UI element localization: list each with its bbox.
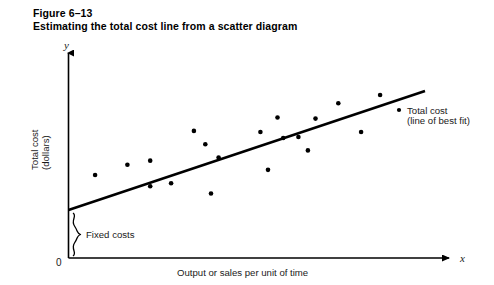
scatter-point <box>336 101 341 106</box>
fixed-costs-brace <box>73 213 81 256</box>
scatter-point <box>266 168 271 173</box>
scatter-point <box>209 191 214 196</box>
scatter-diagram: y x 0 Total cost (dollars) Output or sal… <box>0 0 494 285</box>
scatter-point <box>258 130 263 135</box>
scatter-point <box>378 93 383 98</box>
scatter-point <box>296 135 301 140</box>
series-label-line1: Total cost <box>407 105 448 116</box>
fixed-costs-label: Fixed costs <box>86 229 135 240</box>
origin-label: 0 <box>56 257 62 268</box>
figure-container: Figure 6–13 Estimating the total cost li… <box>0 0 494 285</box>
y-axis-title: Total cost (dollars) <box>29 129 51 170</box>
scatter-point <box>216 155 221 160</box>
y-axis-letter: y <box>63 39 69 51</box>
scatter-point <box>281 136 286 141</box>
scatter-point <box>192 129 197 134</box>
scatter-point <box>359 130 364 135</box>
scatter-point <box>313 116 318 121</box>
scatter-point <box>275 115 280 120</box>
x-axis-letter: x <box>459 252 465 264</box>
scatter-point-group <box>93 93 383 196</box>
x-axis-title: Output or sales per unit of time <box>177 267 308 278</box>
scatter-point <box>148 184 153 189</box>
scatter-point <box>148 158 153 163</box>
series-label-line2: (line of best fit) <box>407 115 470 126</box>
y-axis-title-line1: Total cost <box>29 129 40 170</box>
scatter-point <box>93 173 98 178</box>
y-axis-title-line2: (dollars) <box>40 135 51 170</box>
best-fit-line <box>69 91 426 210</box>
scatter-point <box>306 148 311 153</box>
scatter-point <box>203 142 208 147</box>
scatter-point <box>125 162 130 167</box>
scatter-point <box>169 181 174 186</box>
legend-dot-icon <box>397 108 401 112</box>
